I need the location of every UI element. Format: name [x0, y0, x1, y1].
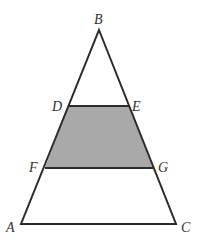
shaded-trapezoid-DEGF [45, 106, 153, 168]
triangle-diagram: B D E F G A C [0, 0, 200, 243]
label-G: G [158, 160, 168, 175]
label-C: C [181, 220, 191, 235]
label-E: E [131, 99, 141, 114]
label-B: B [94, 12, 103, 27]
label-F: F [28, 160, 38, 175]
label-A: A [5, 220, 15, 235]
label-D: D [51, 99, 62, 114]
